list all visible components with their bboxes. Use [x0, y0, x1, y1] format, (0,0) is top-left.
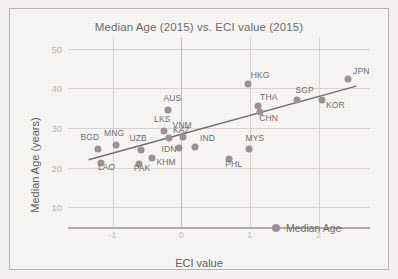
data-point-label: LKS: [154, 114, 170, 124]
y-axis-tick-label: 50: [51, 43, 62, 54]
y-axis-tick-label: 30: [51, 123, 62, 134]
data-point[interactable]: [318, 96, 325, 103]
data-point-label: JPN: [353, 66, 369, 76]
data-point-label: UZB: [129, 133, 146, 143]
x-axis-tick-label: 0: [179, 230, 184, 240]
chart-screenshot: Median Age (2015) vs. ECI value (2015) M…: [0, 0, 398, 279]
data-point-label: VNM: [173, 120, 192, 130]
chart-title: Median Age (2015) vs. ECI value (2015): [10, 21, 388, 33]
data-point[interactable]: [113, 142, 120, 149]
y-axis-tick-label: 10: [51, 202, 62, 213]
data-point-label: MNG: [104, 128, 124, 138]
data-point[interactable]: [244, 81, 251, 88]
data-point[interactable]: [165, 134, 172, 141]
data-point-label: KHM: [156, 157, 175, 167]
x-axis-title: ECI value: [10, 257, 388, 269]
x-axis-tick-label: -1: [109, 230, 117, 240]
plot-area: 5040302010 -1012 BGDLAOMNGPAKUZBKHMLKSKA…: [68, 37, 370, 227]
y-axis-title: Median Age (years): [29, 90, 41, 240]
y-axis-tick-label: 20: [51, 162, 62, 173]
data-point[interactable]: [94, 146, 101, 153]
data-point-label: HKG: [251, 70, 270, 80]
y-axis-tick-label: 40: [51, 83, 62, 94]
data-point-label: CHN: [259, 113, 278, 123]
x-axis-tick-label: 1: [247, 230, 252, 240]
data-point-label: LAO: [98, 162, 115, 172]
data-point-label: THA: [260, 92, 277, 102]
data-point[interactable]: [179, 134, 186, 141]
data-point[interactable]: [149, 155, 156, 162]
data-point-label: PHL: [225, 159, 242, 169]
data-point[interactable]: [345, 75, 352, 82]
data-point-label: IDN: [162, 144, 177, 154]
data-point-label: SGP: [296, 85, 314, 95]
data-point[interactable]: [191, 144, 198, 151]
chart-frame: Median Age (2015) vs. ECI value (2015) M…: [9, 8, 389, 270]
data-point[interactable]: [164, 106, 171, 113]
data-point-label: PAK: [134, 163, 151, 173]
data-point[interactable]: [161, 127, 168, 134]
data-point-label: MYS: [246, 133, 265, 143]
data-point[interactable]: [293, 97, 300, 104]
data-point-label: IND: [200, 133, 215, 143]
data-point-label: KOR: [326, 100, 345, 110]
data-point-label: BGD: [81, 132, 100, 142]
data-point-label: AUS: [164, 93, 182, 103]
data-point[interactable]: [138, 146, 145, 153]
data-point[interactable]: [245, 146, 252, 153]
